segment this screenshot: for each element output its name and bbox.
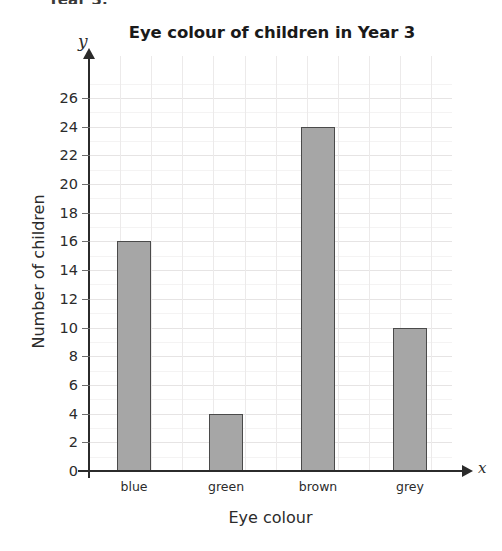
x-axis-arrow-icon xyxy=(462,465,473,477)
gridline-horizontal xyxy=(89,213,452,214)
bar-green xyxy=(209,414,243,471)
x-tick-label: green xyxy=(208,479,244,494)
y-tick-mark xyxy=(82,328,90,329)
y-tick-label: 26 xyxy=(44,90,78,106)
gridline-vertical xyxy=(245,56,246,471)
gridline-vertical xyxy=(182,56,183,471)
x-tick-label: blue xyxy=(120,479,147,494)
y-axis-marker-label: y xyxy=(78,31,88,51)
y-tick-label: 10 xyxy=(44,320,78,336)
y-tick-mark xyxy=(82,241,90,242)
y-tick-label: 6 xyxy=(44,377,78,393)
y-axis-tick-labels: 02468101214161820222426 xyxy=(44,0,78,551)
y-tick-mark xyxy=(82,155,90,156)
y-tick-mark xyxy=(82,213,90,214)
y-axis-title: Number of children xyxy=(29,172,48,372)
y-tick-label: 2 xyxy=(44,434,78,450)
y-tick-label: 12 xyxy=(44,291,78,307)
y-tick-label: 14 xyxy=(44,262,78,278)
y-tick-mark xyxy=(82,385,90,386)
gridline-vertical xyxy=(276,56,277,471)
gridline-vertical xyxy=(431,56,432,471)
x-axis-origin-tick xyxy=(88,470,90,478)
bar-grey xyxy=(393,328,427,472)
gridline-horizontal xyxy=(89,227,452,228)
y-tick-mark xyxy=(82,127,90,128)
gridline-vertical xyxy=(151,56,152,471)
y-tick-mark xyxy=(82,442,90,443)
y-tick-label: 22 xyxy=(44,147,78,163)
x-tick-label: brown xyxy=(299,479,338,494)
y-tick-label: 8 xyxy=(44,348,78,364)
y-tick-mark xyxy=(82,98,90,99)
y-tick-label: 0 xyxy=(44,463,78,479)
y-tick-label: 4 xyxy=(44,406,78,422)
x-tick-label: grey xyxy=(396,479,424,494)
gridline-vertical xyxy=(338,56,339,471)
gridline-horizontal xyxy=(89,127,452,128)
gridline-horizontal xyxy=(89,170,452,171)
x-axis-line xyxy=(78,470,464,472)
gridline-vertical xyxy=(369,56,370,471)
gridline-horizontal xyxy=(89,198,452,199)
x-axis-title: Eye colour xyxy=(89,508,452,527)
y-axis-line xyxy=(88,56,90,472)
y-tick-mark xyxy=(82,356,90,357)
y-tick-label: 20 xyxy=(44,176,78,192)
y-tick-label: 16 xyxy=(44,233,78,249)
gridline-horizontal xyxy=(89,184,452,185)
plot-area xyxy=(89,56,452,471)
y-tick-mark xyxy=(82,414,90,415)
gridline-horizontal xyxy=(89,155,452,156)
gridline-horizontal xyxy=(89,98,452,99)
y-tick-label: 24 xyxy=(44,119,78,135)
bar-blue xyxy=(117,241,151,471)
x-axis-marker-label: x xyxy=(478,459,486,477)
gridline-vertical xyxy=(213,56,214,471)
y-tick-label: 18 xyxy=(44,205,78,221)
gridline-horizontal xyxy=(89,84,452,85)
bar-brown xyxy=(301,127,335,471)
gridline-horizontal xyxy=(89,112,452,113)
gridline-horizontal xyxy=(89,141,452,142)
y-tick-mark xyxy=(82,270,90,271)
y-tick-mark xyxy=(82,299,90,300)
y-tick-mark xyxy=(82,184,90,185)
